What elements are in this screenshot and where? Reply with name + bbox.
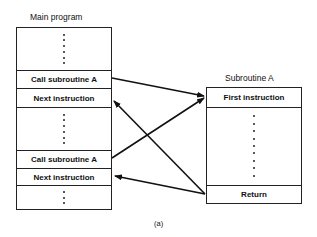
ellipsis-dots [207,110,301,182]
arrow-call2-to-first [112,98,204,158]
arrow-call1-to-first [112,78,204,96]
subroutine-box: First instruction Return [206,87,302,204]
call-subroutine-row-2: Call subroutine A [17,150,111,168]
call-subroutine-row-1: Call subroutine A [17,70,111,88]
subroutine-title: Subroutine A [225,73,274,83]
ellipsis-dots [17,110,111,148]
arrow-return-to-next1 [114,101,205,194]
arrow-return-to-next2 [115,176,205,194]
first-instruction-row: First instruction [207,88,301,107]
ellipsis-dots [17,30,111,68]
next-instruction-row-1: Next instruction [17,88,111,107]
return-row: Return [207,185,301,203]
figure-caption: (a) [154,219,163,228]
ellipsis-dots [17,187,111,208]
main-program-title: Main program [30,12,82,22]
next-instruction-row-2: Next instruction [17,168,111,185]
main-program-box: Call subroutine A Next instruction Call … [16,27,112,210]
